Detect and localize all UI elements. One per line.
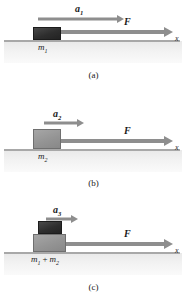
panel-a: x a1 F m1 (a) (0, 0, 187, 100)
panel-b: x a2 F m2 (b) (0, 100, 187, 200)
force-label-c: F (124, 229, 131, 239)
acceleration-label-a1: a1 (75, 4, 83, 17)
ground-line-a (4, 40, 180, 42)
block-m1-a (33, 27, 61, 40)
block-m2-b (33, 129, 61, 149)
mass-sub-m1-a: 1 (45, 48, 48, 54)
panel-c: x a3 F m1+m2 (c) (0, 200, 187, 307)
acceleration-sub-a3: 3 (58, 210, 61, 217)
axis-label-x-c: x (175, 246, 179, 255)
axis-label-x-a: x (175, 34, 179, 43)
acceleration-label-a2: a2 (53, 109, 61, 122)
ground-line-b (4, 149, 180, 151)
mass-sub-m2-b: 2 (45, 157, 48, 163)
block-m2-c (33, 234, 66, 252)
panel-caption-b: (b) (0, 178, 187, 188)
mass-plus-sign-c: + (42, 254, 47, 264)
mass-label-combined-c: m1+m2 (31, 255, 59, 267)
force-label-b: F (124, 126, 131, 136)
block-m1-c (38, 221, 62, 234)
acceleration-sub-a2: 2 (58, 114, 61, 121)
mass-sub-m1-c: 1 (38, 260, 41, 266)
mass-label-m1-a: m1 (38, 43, 47, 55)
panel-caption-c: (c) (0, 282, 187, 292)
axis-label-x-b: x (175, 143, 179, 152)
acceleration-label-a3: a3 (53, 205, 61, 218)
panel-caption-a: (a) (0, 70, 187, 80)
mass-label-m2-b: m2 (38, 152, 47, 164)
acceleration-sub-a1: 1 (80, 9, 83, 16)
ground-shade-b (4, 150, 182, 172)
mass-sub-m2-c: 2 (56, 260, 59, 266)
ground-shade-a (4, 41, 182, 63)
force-label-a: F (124, 17, 131, 27)
